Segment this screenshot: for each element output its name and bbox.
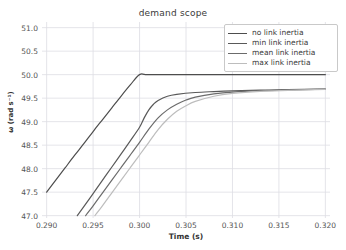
y-tick-label: 51.0 <box>4 23 38 32</box>
legend-label: max link inertia <box>252 58 311 68</box>
x-tick-label: 0.300 <box>129 221 150 230</box>
y-tick-label: 47.5 <box>4 188 38 197</box>
legend-swatch-icon <box>228 33 247 34</box>
y-axis-tick-labels: 47.047.548.048.549.049.550.050.551.0 <box>0 22 38 218</box>
y-tick-label: 48.0 <box>4 164 38 173</box>
x-tick-label: 0.305 <box>175 221 196 230</box>
y-axis-label: ω (rad s⁻¹) <box>7 82 15 142</box>
legend-item[interactable]: no link inertia <box>228 28 333 38</box>
y-tick-label: 50.5 <box>4 47 38 56</box>
legend-item[interactable]: max link inertia <box>228 58 333 68</box>
legend-swatch-icon <box>228 63 247 64</box>
x-tick-label: 0.315 <box>268 221 289 230</box>
series-line-1 <box>77 89 325 215</box>
x-tick-label: 0.310 <box>222 221 243 230</box>
x-axis-label: Time (s) <box>42 232 330 241</box>
legend-label: mean link inertia <box>252 48 315 58</box>
x-tick-label: 0.295 <box>82 221 103 230</box>
legend-swatch-icon <box>228 43 247 44</box>
legend-label: min link inertia <box>252 38 308 48</box>
legend-label: no link inertia <box>252 28 304 38</box>
x-tick-label: 0.290 <box>36 221 57 230</box>
figure: demand scope 47.047.548.048.549.049.550.… <box>0 0 346 250</box>
legend-item[interactable]: min link inertia <box>228 38 333 48</box>
legend-swatch-icon <box>228 53 247 54</box>
legend-item[interactable]: mean link inertia <box>228 48 333 58</box>
series-line-3 <box>95 89 325 215</box>
x-tick-label: 0.320 <box>315 221 336 230</box>
y-tick-label: 50.0 <box>4 70 38 79</box>
y-tick-label: 47.0 <box>4 211 38 220</box>
chart-title: demand scope <box>0 8 346 18</box>
legend: no link inertiamin link inertiamean link… <box>224 24 338 72</box>
